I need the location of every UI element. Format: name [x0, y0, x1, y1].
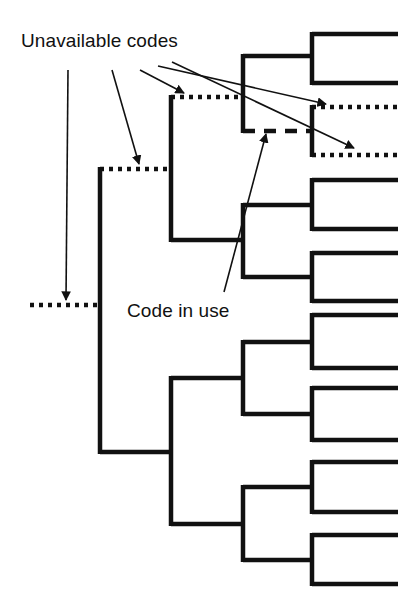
leaf-pair-2 [243, 105, 398, 157]
leaf-pair-8 [243, 533, 398, 586]
level2-node-b [100, 376, 171, 526]
level3-node-c [171, 340, 243, 416]
diagram-canvas: Unavailable codes Code in use [0, 0, 405, 615]
leaf-pair-5 [243, 313, 398, 370]
leaf-pair-7 [243, 460, 398, 514]
leaf-pair-6 [243, 386, 398, 442]
arrow-to-leaf2-bottom [172, 62, 354, 148]
level3-node-b [171, 203, 243, 279]
level2-node-a [171, 95, 243, 242]
leaf-pair-1 [243, 32, 398, 85]
unavailable-codes-label: Unavailable codes [21, 30, 178, 52]
level3-node-d [171, 485, 243, 562]
arrow-to-level1-branch [112, 70, 139, 164]
arrow-to-level2-branch [140, 70, 184, 93]
leaf-pair-4 [243, 251, 398, 303]
code-in-use-label: Code in use [127, 300, 230, 322]
arrow-to-root-branch [66, 70, 68, 300]
leaf-pair-3 [243, 178, 398, 231]
